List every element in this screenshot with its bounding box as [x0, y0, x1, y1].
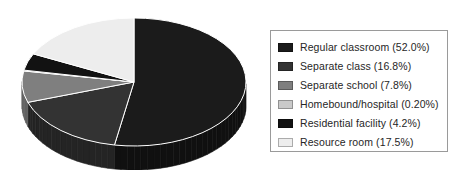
legend-color-swatch	[278, 119, 293, 128]
pie-slice-side	[217, 122, 221, 149]
pie-slice-side	[134, 146, 141, 170]
legend-item: Separate school (7.8%)	[278, 76, 447, 94]
pie-chart-svg	[14, 8, 262, 170]
pie-slice-side	[173, 141, 179, 166]
legend-color-swatch	[278, 62, 293, 71]
legend-item-label: Residential facility (4.2%)	[300, 118, 421, 129]
pie-slice-side	[212, 125, 217, 152]
pie-slice-side	[154, 144, 160, 169]
legend-color-swatch	[278, 43, 293, 52]
legend-color-swatch	[278, 81, 293, 90]
legend-item: Homebound/hospital (0.20%)	[278, 95, 447, 113]
legend-item: Regular classroom (52.0%)	[278, 38, 447, 56]
pie-slice-side	[121, 146, 128, 170]
pie-chart-graphic	[14, 8, 262, 170]
pie-slice-side	[66, 133, 71, 159]
pie-slice-side	[167, 142, 173, 167]
pie-slice-side	[232, 109, 235, 136]
pie-chart-figure: Regular classroom (52.0%)Separate class …	[0, 0, 461, 176]
pie-slice-side	[83, 139, 89, 165]
pie-slice-side	[51, 125, 56, 152]
pie-slice-side	[28, 102, 30, 130]
pie-slice-side	[147, 145, 154, 170]
pie-slice-side	[238, 102, 240, 130]
legend-color-swatch	[278, 100, 293, 109]
pie-slice-side	[221, 119, 225, 146]
legend-item: Residential facility (4.2%)	[278, 114, 447, 132]
legend-item-list: Regular classroom (52.0%)Separate class …	[271, 31, 447, 151]
pie-slice-side	[43, 119, 47, 146]
chart-legend: Regular classroom (52.0%)Separate class …	[270, 30, 448, 152]
pie-slice-side	[30, 106, 33, 133]
pie-slice-side	[128, 146, 135, 170]
legend-item-label: Separate school (7.8%)	[300, 80, 412, 91]
pie-slice-side	[56, 128, 61, 155]
pie-slice-side	[36, 113, 39, 140]
pie-slice-side	[108, 144, 115, 169]
pie-slice-side	[225, 116, 229, 143]
legend-item: Separate class (16.8%)	[278, 57, 447, 75]
pie-slice-side	[77, 137, 83, 163]
pie-slice-side	[95, 142, 101, 167]
pie-slice-side	[89, 141, 95, 166]
pie-slice-side	[229, 113, 232, 140]
pie-slice-side	[185, 137, 191, 163]
legend-item-label: Separate class (16.8%)	[300, 61, 411, 72]
pie-slice-side	[71, 135, 77, 161]
legend-item-label: Regular classroom (52.0%)	[300, 42, 430, 53]
legend-item-label: Resource room (17.5%)	[300, 137, 414, 148]
pie-slice-side	[207, 128, 212, 155]
pie-slice-tops	[22, 18, 246, 146]
pie-slice-side	[141, 146, 148, 170]
pie-slice-side	[47, 122, 51, 149]
pie-slice-side	[39, 116, 43, 143]
pie-slice-side	[191, 135, 197, 161]
pie-slice-side	[179, 139, 185, 165]
pie-slice-side	[161, 143, 167, 168]
pie-slice-side	[235, 106, 238, 133]
pie-slice-side	[101, 143, 107, 168]
pie-slice-side	[61, 130, 66, 156]
pie-slice-side	[114, 145, 121, 170]
legend-color-swatch	[278, 138, 293, 147]
legend-item-label: Homebound/hospital (0.20%)	[300, 99, 439, 110]
legend-item: Resource room (17.5%)	[278, 133, 447, 151]
pie-slice-side	[202, 130, 207, 156]
pie-slice-side	[197, 133, 202, 159]
pie-slice-side	[33, 109, 36, 136]
